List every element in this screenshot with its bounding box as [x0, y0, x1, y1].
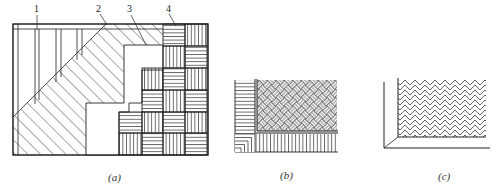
- callout-3: 3: [127, 3, 132, 14]
- caption-b: (b): [280, 169, 293, 181]
- callout-2: 2: [96, 3, 101, 14]
- caption-a: (a): [108, 171, 121, 183]
- panel-c: [384, 78, 490, 148]
- diagram-canvas: [0, 0, 496, 192]
- callout-1: 1: [34, 3, 39, 14]
- callout-4: 4: [166, 3, 171, 14]
- caption-c: (c): [438, 170, 450, 182]
- panel-a: [13, 14, 208, 155]
- panel-b: [235, 79, 338, 152]
